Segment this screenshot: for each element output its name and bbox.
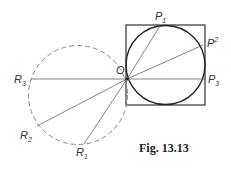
figure-diagram: O P1 P2 P3 R3 R2 R1 Fig. 13.13 xyxy=(0,0,231,170)
line-O-R1 xyxy=(84,79,127,144)
dashed-circle xyxy=(29,46,128,145)
line-O-P1 xyxy=(127,26,160,79)
label-R1: R1 xyxy=(76,146,88,160)
label-P2: P2 xyxy=(207,36,218,49)
label-R3: R3 xyxy=(14,73,26,87)
figure-caption: Fig. 13.13 xyxy=(139,141,189,155)
line-O-R2 xyxy=(37,79,127,126)
line-O-P2 xyxy=(127,45,203,79)
origin-point xyxy=(125,77,128,80)
label-P3: P3 xyxy=(208,73,219,87)
solid-circle xyxy=(126,26,205,105)
label-R2: R2 xyxy=(20,129,32,143)
label-O: O xyxy=(116,64,125,76)
label-P1: P1 xyxy=(155,10,166,24)
